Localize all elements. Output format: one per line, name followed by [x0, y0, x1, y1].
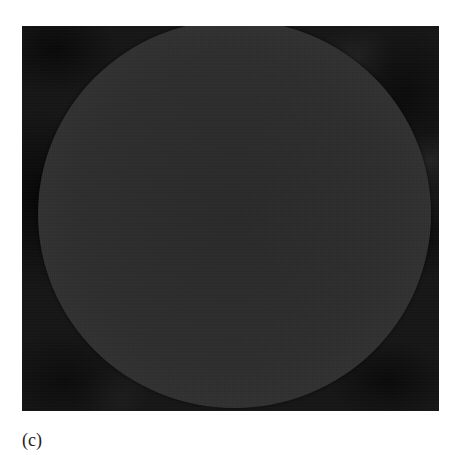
panel-label: (c) [22, 431, 42, 449]
circular-disc [38, 26, 431, 408]
micrograph-image [22, 26, 439, 411]
